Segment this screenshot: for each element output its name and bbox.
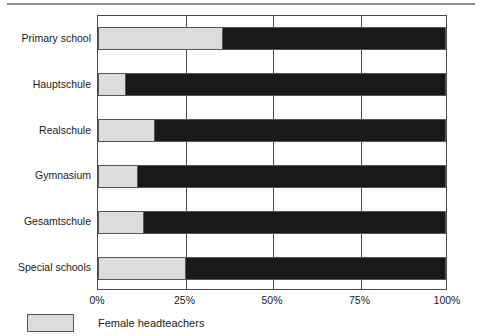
bar-row [98, 62, 446, 108]
x-tick-100%: 100% [417, 294, 477, 306]
bar-segment-remainder[interactable] [138, 166, 445, 187]
bar-segment-female-headteachers[interactable] [99, 258, 186, 279]
stacked-bar[interactable] [98, 119, 446, 142]
stacked-bar[interactable] [98, 211, 446, 234]
stacked-bar[interactable] [98, 165, 446, 188]
bar-segment-remainder[interactable] [155, 120, 445, 141]
x-tick-50%: 50% [242, 294, 302, 306]
category-label-hauptschule: Hauptschule [0, 78, 91, 90]
stacked-bar-chart: Primary schoolHauptschuleRealschuleGymna… [0, 0, 480, 336]
legend-swatch-female-headteachers [27, 314, 74, 332]
stacked-bar[interactable] [98, 27, 446, 50]
bar-segment-female-headteachers[interactable] [99, 120, 155, 141]
bar-segment-female-headteachers[interactable] [99, 28, 223, 49]
bar-row [98, 245, 446, 291]
x-tick-0%: 0% [67, 294, 127, 306]
stacked-bar[interactable] [98, 257, 446, 280]
legend-label-female-headteachers: Female headteachers [98, 317, 204, 329]
bar-segment-remainder[interactable] [186, 258, 446, 279]
bar-segment-remainder[interactable] [144, 212, 445, 233]
bar-row [98, 108, 446, 154]
category-label-realschule: Realschule [0, 124, 91, 136]
plot-area [97, 15, 447, 290]
category-label-gesamtschule: Gesamtschule [0, 215, 91, 227]
stacked-bar[interactable] [98, 73, 446, 96]
chart-legend: Female headteachers [27, 314, 204, 332]
category-label-primary-school: Primary school [0, 32, 91, 44]
bar-row [98, 199, 446, 245]
bar-segment-remainder[interactable] [223, 28, 445, 49]
bar-row [98, 154, 446, 200]
category-label-gymnasium: Gymnasium [0, 169, 91, 181]
bar-segment-female-headteachers[interactable] [99, 166, 138, 187]
bar-segment-female-headteachers[interactable] [99, 212, 144, 233]
x-tick-75%: 75% [330, 294, 390, 306]
bar-segment-remainder[interactable] [126, 74, 445, 95]
bar-segment-female-headteachers[interactable] [99, 74, 126, 95]
x-tick-25%: 25% [155, 294, 215, 306]
bar-row [98, 16, 446, 62]
category-label-special-schools: Special schools [0, 261, 91, 273]
